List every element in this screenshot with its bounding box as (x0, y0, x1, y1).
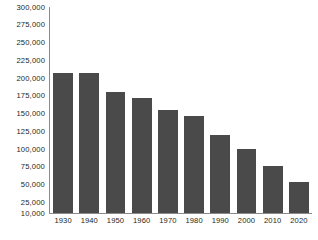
bar (263, 166, 283, 213)
bar-slot (286, 7, 312, 213)
bar (132, 98, 152, 213)
bar (53, 73, 73, 213)
bar-slot (260, 7, 286, 213)
x-axis-line (49, 213, 312, 214)
bar-slot (233, 7, 259, 213)
y-axis-tick-label: 250,000 (0, 38, 47, 47)
bar-slot (181, 7, 207, 213)
x-axis-tick-label: 2020 (286, 215, 312, 226)
bar (289, 182, 309, 213)
y-axis-tick-label: 100,000 (0, 145, 47, 154)
bar-slot (129, 7, 155, 213)
bar-slot (155, 7, 181, 213)
y-axis-tick-label: 10,000 (0, 209, 47, 218)
x-axis-tick-label: 2010 (260, 215, 286, 226)
bar-slot (207, 7, 233, 213)
y-axis-tick-label: 175,000 (0, 91, 47, 100)
y-axis-tick-label: 75,000 (0, 162, 47, 171)
bar-chart: 10,00025,00050,00075,000100,000125,00015… (0, 0, 318, 240)
y-axis-tick-label: 25,000 (0, 198, 47, 207)
y-axis-tick-label: 125,000 (0, 127, 47, 136)
y-axis-tick-label: 225,000 (0, 56, 47, 65)
y-axis-tick-label: 50,000 (0, 180, 47, 189)
x-axis-tick-label: 1940 (76, 215, 102, 226)
bar-slot (102, 7, 128, 213)
x-axis-tick-label: 1950 (102, 215, 128, 226)
x-axis-tick-label: 2000 (233, 215, 259, 226)
bar (184, 116, 204, 213)
y-axis-tick-label: 200,000 (0, 74, 47, 83)
bar-slot (76, 7, 102, 213)
x-axis-tick-label: 1980 (181, 215, 207, 226)
x-axis-tick-label: 1960 (129, 215, 155, 226)
bar (79, 73, 99, 213)
y-axis: 10,00025,00050,00075,000100,000125,00015… (0, 0, 47, 240)
bar (237, 149, 257, 213)
x-axis-tick-label: 1970 (155, 215, 181, 226)
x-axis-tick-label: 1930 (50, 215, 76, 226)
y-axis-tick-label: 150,000 (0, 109, 47, 118)
y-axis-tick-label: 275,000 (0, 20, 47, 29)
bar (158, 110, 178, 213)
x-axis: 1930194019501960197019801990200020102020 (50, 215, 312, 229)
plot-area (50, 7, 312, 213)
y-axis-tick-label: 300,000 (0, 3, 47, 12)
bar-slot (50, 7, 76, 213)
bar (210, 135, 230, 213)
x-axis-tick-label: 1990 (207, 215, 233, 226)
bar (106, 92, 126, 213)
